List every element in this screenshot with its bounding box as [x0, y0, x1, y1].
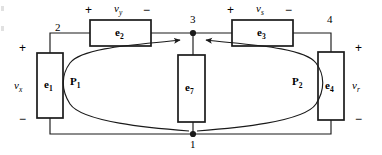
wire-node1-to-e4 — [193, 120, 331, 134]
path-loop-p2 — [197, 40, 323, 131]
element-box-group — [37, 20, 344, 122]
element-label-e1: e1 — [44, 79, 53, 92]
node-label-1: 1 — [190, 139, 196, 150]
node-dot-1 — [190, 131, 196, 137]
polarity-minus-vr: − — [355, 113, 362, 125]
polarity-minus-vy: − — [143, 4, 150, 16]
element-label-e4: e4 — [325, 80, 334, 93]
element-label-e2: e2 — [115, 27, 124, 40]
polarity-plus-vx: + — [19, 42, 26, 54]
circuit-diagram-figure: 2 3 4 1 e1 e2 e3 e4 e7 vx vy vs vr + − +… — [0, 0, 382, 155]
path-label-p2: P2 — [292, 76, 302, 89]
path-loop-p1 — [63, 40, 189, 131]
element-label-e7: e7 — [185, 82, 194, 95]
node-dot-3 — [190, 30, 196, 36]
voltage-label-vs: vs — [256, 3, 264, 16]
polarity-minus-vx: − — [19, 113, 26, 125]
voltage-label-vy: vy — [114, 3, 122, 16]
wire-node2-to-e2 — [50, 33, 90, 53]
node-label-4: 4 — [327, 14, 333, 25]
voltage-label-vr: vr — [352, 80, 360, 93]
wire-e3-to-node4-e4 — [293, 33, 331, 52]
polarity-plus-vs: + — [227, 4, 234, 16]
node-label-3: 3 — [190, 14, 196, 25]
node-label-2: 2 — [55, 22, 61, 33]
wire-e1-to-node1 — [50, 118, 193, 134]
polarity-minus-vs: − — [285, 4, 292, 16]
path-label-p1: P1 — [70, 76, 80, 89]
polarity-plus-vr: + — [355, 42, 362, 54]
element-label-e3: e3 — [257, 27, 266, 40]
polarity-plus-vy: + — [85, 4, 92, 16]
voltage-label-vx: vx — [14, 80, 22, 93]
